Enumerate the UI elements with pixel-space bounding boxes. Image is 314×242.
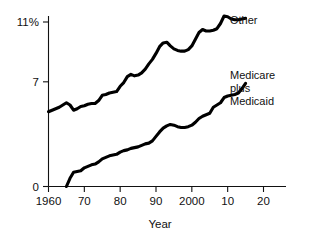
x-tick-label: 1960 xyxy=(36,195,62,207)
health-spending-line-chart: 11%70 196070809020001020 Other Medicare … xyxy=(0,0,314,242)
x-tick-label: 10 xyxy=(221,195,234,207)
y-tick-label: 0 xyxy=(33,181,39,193)
x-tick-label: 80 xyxy=(114,195,127,207)
series-label-medicare-line3: Medicaid xyxy=(230,95,274,107)
x-axis-title: Year xyxy=(148,218,171,230)
x-tick-label: 70 xyxy=(78,195,91,207)
x-tick-label: 2000 xyxy=(179,195,205,207)
y-tick-label: 11% xyxy=(17,16,39,28)
x-tick-label: 20 xyxy=(257,195,270,207)
series-label-medicare-line2: plus xyxy=(230,82,251,94)
y-tick-label: 7 xyxy=(33,76,39,88)
series-label-medicare-line1: Medicare xyxy=(230,69,275,81)
chart-container: 11%70 196070809020001020 Other Medicare … xyxy=(0,0,314,242)
series-label-other: Other xyxy=(230,14,258,26)
x-tick-label: 90 xyxy=(150,195,163,207)
